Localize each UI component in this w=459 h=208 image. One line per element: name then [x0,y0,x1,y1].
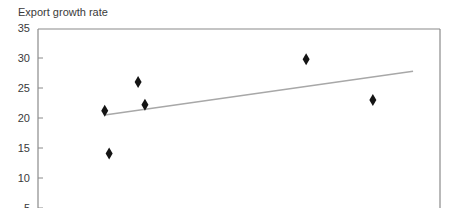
y-tick-label: 20 [18,112,30,124]
y-tick-label: 5 [24,202,30,208]
y-tick-label: 10 [18,172,30,184]
y-tick-label: 30 [18,52,30,64]
data-point-diamond [106,147,113,159]
y-tick-label: 15 [18,142,30,154]
data-point-diamond [135,76,142,88]
scatter-chart: 3530252015105 [0,0,459,208]
y-tick-label: 25 [18,82,30,94]
data-point-diamond [303,53,310,65]
trendline [105,71,413,115]
data-point-diamond [369,94,376,106]
y-tick-label: 35 [18,22,30,34]
